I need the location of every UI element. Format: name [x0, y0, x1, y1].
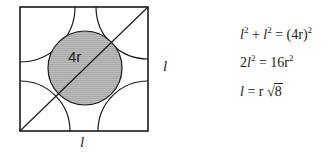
eq3-rhs: = r — [244, 84, 267, 99]
eq2-rhs: = 16r — [255, 55, 289, 70]
sqrt-expression: √8 — [267, 84, 283, 100]
equation-3: l = r √8 — [240, 84, 283, 100]
eq1-rhs: = (4r) — [272, 27, 308, 42]
equation-2: 2l2 = 16r2 — [240, 55, 293, 71]
sqrt-radicand: 8 — [274, 83, 283, 99]
eq1-exp-c: 2 — [308, 25, 313, 35]
face-diagonal — [20, 7, 148, 131]
side-label-right: l — [163, 58, 167, 75]
side-label-bottom: l — [80, 134, 84, 151]
eq2-exp-b: 2 — [289, 53, 294, 63]
diagonal-label: 4r — [68, 48, 81, 65]
equation-1: l2 + l2 = (4r)2 — [240, 27, 312, 43]
unit-cell-diagram: 4r — [0, 0, 180, 154]
eq1-plus: + — [248, 27, 263, 42]
eq2-coef: 2 — [240, 55, 247, 70]
